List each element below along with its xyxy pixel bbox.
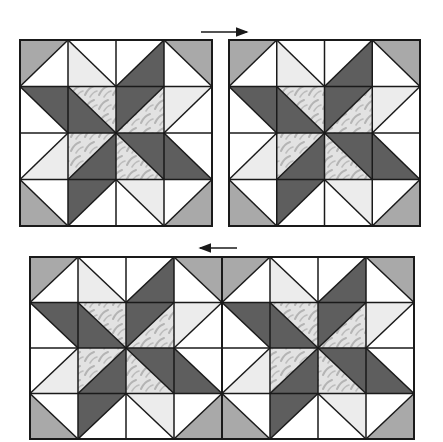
- diagram-canvas: [0, 0, 443, 442]
- block-row-left: [30, 257, 222, 439]
- quilt-blocks: [20, 40, 420, 439]
- block-top-left: [20, 40, 212, 226]
- quilt-assembly-diagram: [0, 0, 443, 442]
- block-row-right: [222, 257, 414, 439]
- block-top-right: [229, 40, 420, 226]
